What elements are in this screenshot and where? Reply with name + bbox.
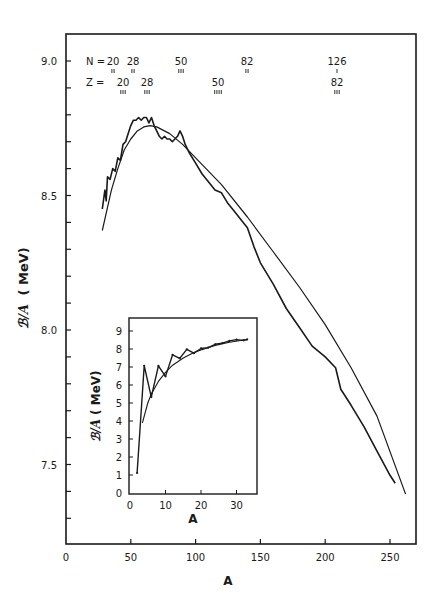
- inset-y-tick-label: 3: [116, 434, 122, 445]
- inset-x-tick-label: 0: [127, 500, 133, 511]
- z-magic-label: 20: [117, 77, 130, 88]
- main-x-tick-label: 200: [316, 552, 335, 563]
- inset-y-axis-title: ℬ/A( MeV): [89, 370, 103, 441]
- inset-y-tick-label: 0: [116, 488, 122, 499]
- main-y-tick-label: 8.0: [41, 325, 57, 336]
- n-magic-label: 82: [241, 56, 254, 67]
- inset-axes-box: [129, 318, 257, 494]
- n-magic-label: 50: [175, 56, 188, 67]
- inset-y-tick-label: 2: [116, 452, 122, 463]
- inset-x-tick-label: 20: [195, 500, 208, 511]
- inset-y-tick-label: 1: [116, 470, 122, 481]
- main-x-tick-label: 150: [251, 552, 270, 563]
- z-magic-label: 82: [331, 77, 344, 88]
- svg-text:ℬ/A ( MeV): ℬ/A ( MeV): [16, 247, 31, 329]
- inset-y-tick-label: 8: [116, 344, 122, 355]
- inset-y-tick-label: 7: [116, 362, 122, 373]
- main-x-axis-title: A: [223, 574, 233, 588]
- inset-x-tick-label: 30: [230, 500, 243, 511]
- main-x-tick-label: 250: [380, 552, 399, 563]
- inset-y-tick-label: 9: [116, 326, 122, 337]
- inset-x-axis-title: A: [188, 512, 198, 526]
- svg-text:ℬ/A( MeV): ℬ/A( MeV): [89, 370, 103, 441]
- z-prefix: Z =: [86, 77, 104, 88]
- main-x-tick-label: 0: [63, 552, 69, 563]
- main-x-tick-label: 100: [186, 552, 205, 563]
- inset-x-tick-label: 10: [159, 500, 172, 511]
- main-y-tick-label: 7.5: [41, 460, 57, 471]
- main-y-axis-title: ℬ/A ( MeV): [16, 247, 31, 329]
- n-magic-label: 126: [327, 56, 346, 67]
- z-magic-label: 28: [141, 77, 154, 88]
- main-y-tick-label: 8.5: [41, 191, 57, 202]
- n-magic-label: 28: [127, 56, 140, 67]
- n-magic-label: 20: [107, 56, 120, 67]
- binding-energy-chart: 7.58.08.59.0050100150200250 N =Z =202850…: [0, 0, 440, 608]
- n-prefix: N =: [86, 56, 105, 67]
- magic-number-annotations: N =Z =2028508212620285082: [86, 56, 347, 94]
- inset-plot: 01234567890102030Aℬ/A( MeV): [89, 318, 257, 526]
- inset-y-tick-label: 4: [116, 416, 122, 427]
- main-y-axis-unit: ( MeV): [16, 247, 31, 295]
- main-y-axis-symbol: ℬ/A: [16, 304, 31, 329]
- z-magic-label: 50: [212, 77, 225, 88]
- inset-y-tick-label: 5: [116, 398, 122, 409]
- main-x-tick-label: 50: [124, 552, 137, 563]
- main-y-tick-label: 9.0: [41, 56, 57, 67]
- inset-y-tick-label: 6: [116, 380, 122, 391]
